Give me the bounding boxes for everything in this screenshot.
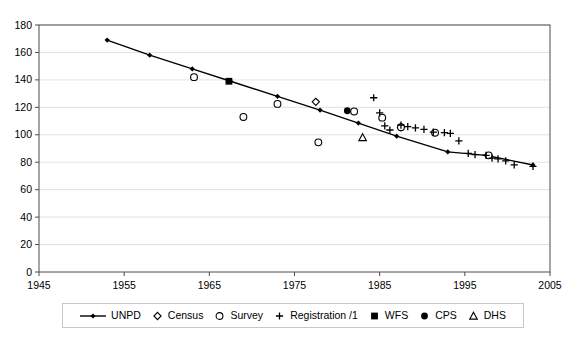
marker-survey [274,101,281,108]
marker-registration [471,151,478,158]
marker-registration [455,137,462,144]
marker-unpd [190,66,195,71]
series-cps [344,107,351,114]
legend-item-dhs[interactable]: DHS [468,310,506,322]
marker-unpd [394,134,399,139]
series-census [312,98,404,131]
marker-survey [191,74,198,81]
marker-survey [240,114,247,121]
marker-dhs [469,312,477,319]
legend-item-census[interactable]: Census [152,310,204,322]
legend-item-label: Survey [230,310,263,321]
x-tick-label: 1945 [27,279,51,291]
legend-item-cps[interactable]: CPS [419,310,457,322]
legend-item-survey[interactable]: Survey [214,310,263,322]
marker-unpd [317,107,322,112]
legend-item-label: CPS [435,310,457,321]
marker-census [154,312,161,319]
series-registration-1 [370,94,536,170]
chart-plot-area: 0204060801001201401601801945195519651975… [0,0,587,300]
y-tick-label: 20 [20,238,32,250]
marker-registration [447,130,454,137]
marker-wfs [226,78,233,85]
x-tick-label: 1965 [198,279,222,291]
marker-registration [420,126,427,133]
marker-registration [370,94,377,101]
marker-registration [441,129,448,136]
series-survey [191,74,492,159]
marker-wfs [371,312,378,319]
series-unpd [105,37,536,167]
legend-item-unpd[interactable]: UNPD [80,310,141,322]
y-tick-label: 40 [20,211,32,223]
legend-item-label: Registration /1 [290,310,358,321]
legend-marker-open-diamond-icon [152,310,163,322]
legend-item-wfs[interactable]: WFS [369,310,408,322]
legend-marker-filled-circle-icon [419,310,430,322]
chart-container: 0204060801001201401601801945195519651975… [0,0,587,338]
marker-census [312,98,319,105]
y-tick-label: 160 [14,46,32,58]
marker-survey [351,108,358,115]
marker-registration [465,150,472,157]
chart-legend: UNPDCensusSurveyRegistration /1WFSCPSDHS [62,303,524,328]
y-tick-label: 120 [14,101,32,113]
marker-registration [404,123,411,130]
legend-marker-plus-icon [274,310,285,322]
marker-survey [217,312,224,319]
marker-registration [412,124,419,131]
legend-item-label: Census [168,310,204,321]
marker-unpd [356,121,361,126]
x-tick-label: 1955 [112,279,136,291]
legend-item-registration-1[interactable]: Registration /1 [274,310,358,322]
marker-cps [421,312,428,319]
legend-item-label: WFS [385,310,408,321]
marker-cps [344,107,351,114]
y-tick-label: 80 [20,156,32,168]
y-tick-label: 60 [20,183,32,195]
marker-unpd [275,94,280,99]
legend-marker-line-diamond-icon [80,310,106,322]
marker-unpd [105,37,110,42]
y-tick-label: 140 [14,73,32,85]
legend-item-label: UNPD [111,310,141,321]
legend-item-label: DHS [484,310,506,321]
x-tick-label: 2005 [538,279,562,291]
series-wfs [226,78,233,85]
marker-registration [276,312,283,319]
y-tick-label: 180 [14,19,32,31]
marker-registration [494,155,501,162]
x-tick-label: 1975 [283,279,307,291]
plot-frame [39,25,550,272]
marker-registration [381,122,388,129]
legend-marker-filled-square-icon [369,310,380,322]
y-tick-label: 0 [26,266,32,278]
legend-marker-open-circle-icon [214,310,225,322]
marker-survey [432,129,439,136]
legend-marker-open-triangle-icon [468,310,479,322]
x-tick-label: 1985 [368,279,392,291]
marker-unpd [90,313,95,318]
series-line-unpd [107,40,533,165]
x-tick-label: 1995 [453,279,477,291]
marker-survey [315,139,322,146]
marker-unpd [147,53,152,58]
y-tick-label: 100 [14,128,32,140]
marker-unpd [445,149,450,154]
